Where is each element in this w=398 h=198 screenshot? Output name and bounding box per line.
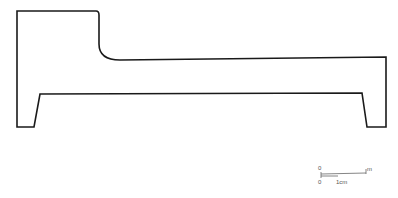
scale-bar: 0 m 0 1cm [318,165,372,185]
scale-bottom-end-label: 1cm [336,179,347,185]
scale-top-end-label: m [367,166,372,172]
scale-top-start-label: 0 [318,165,322,171]
profile-outline [17,11,386,127]
scale-bar-line-top [321,173,366,174]
scale-bottom-start-label: 0 [318,179,322,185]
profile-drawing: 0 m 0 1cm [0,0,398,198]
